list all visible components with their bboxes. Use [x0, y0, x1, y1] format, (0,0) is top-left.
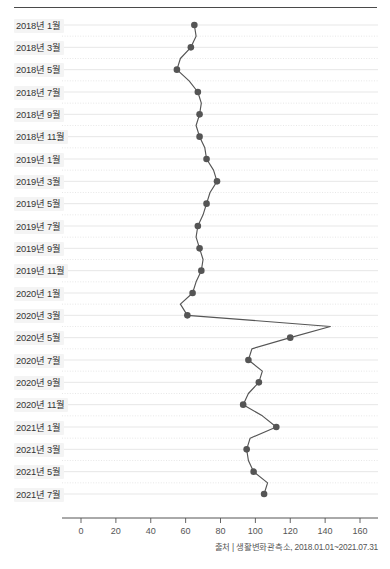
y-axis-tick-label: 2018년 5월: [14, 63, 64, 77]
data-point-marker: [198, 267, 205, 274]
y-axis-tick-label: 2019년 7월: [14, 220, 64, 234]
data-point-marker: [245, 357, 252, 364]
y-axis-tick-label: 2019년 5월: [14, 197, 64, 211]
data-point-marker: [195, 89, 202, 96]
data-point-marker: [189, 290, 196, 297]
y-axis-tick-label: 2020년 5월: [14, 331, 64, 345]
y-axis-tick-label: 2020년 11월: [14, 398, 68, 412]
data-point-marker: [196, 133, 203, 140]
data-point-marker: [196, 111, 203, 118]
x-axis-tick-label: 160: [340, 526, 380, 537]
data-point-marker: [250, 468, 257, 475]
y-axis-tick-label: 2020년 7월: [14, 354, 64, 368]
data-point-marker: [196, 245, 203, 252]
data-point-marker: [240, 401, 247, 408]
x-axis-line-group: [62, 518, 378, 523]
y-axis-tick-label: 2021년 3월: [14, 443, 64, 457]
y-axis-tick-label: 2019년 9월: [14, 242, 64, 256]
data-point-marker: [195, 223, 202, 230]
y-axis-tick-label: 2021년 7월: [14, 488, 64, 502]
gridlines-group: [62, 25, 378, 494]
data-point-marker: [243, 446, 250, 453]
data-point-marker: [188, 44, 195, 51]
y-axis-tick-label: 2020년 9월: [14, 376, 64, 390]
data-point-marker: [287, 334, 294, 341]
data-point-marker: [214, 178, 221, 185]
data-point-marker: [203, 156, 210, 163]
data-point-marker: [273, 424, 280, 431]
y-axis-tick-label: 2019년 1월: [14, 153, 64, 167]
y-axis-tick-label: 2019년 3월: [14, 175, 64, 189]
data-point-marker: [174, 66, 181, 73]
y-axis-tick-label: 2018년 11월: [14, 130, 68, 144]
y-axis-tick-label: 2021년 5월: [14, 465, 64, 479]
y-axis-tick-label: 2021년 1월: [14, 421, 64, 435]
y-axis-tick-label: 2018년 7월: [14, 86, 64, 100]
data-point-marker: [184, 312, 191, 319]
y-axis-tick-label: 2018년 1월: [14, 19, 64, 33]
y-axis-tick-label: 2020년 1월: [14, 287, 64, 301]
data-point-marker: [261, 491, 268, 498]
y-axis-tick-label: 2018년 9월: [14, 108, 64, 122]
data-point-marker: [203, 200, 210, 207]
data-point-marker: [191, 22, 198, 29]
y-axis-tick-label: 2020년 3월: [14, 309, 64, 323]
y-axis-tick-label: 2019년 11월: [14, 264, 68, 278]
y-axis-tick-label: 2018년 3월: [14, 41, 64, 55]
chart-container: 2018년 1월2018년 3월2018년 5월2018년 7월2018년 9월…: [0, 0, 390, 569]
source-note: 출처 | 생활변화관측소, 2018.01.01~2021.07.31: [215, 540, 378, 552]
data-point-marker: [256, 379, 263, 386]
